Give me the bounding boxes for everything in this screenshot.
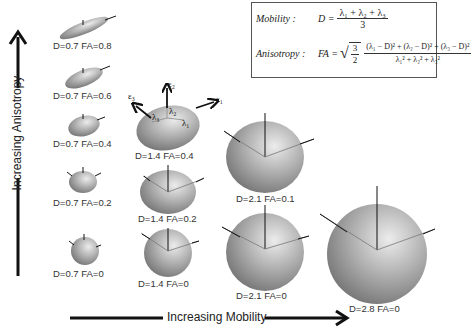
anisotropy-label: Anisotropy : xyxy=(256,48,318,59)
label-d07-fa0: D=0.7 FA=0 xyxy=(53,268,104,279)
sqrt-coefficient: √ 3 2 xyxy=(340,42,361,66)
ellipsoid-d07-fa02 xyxy=(67,167,101,193)
label-d14-fa04: D=1.4 FA=0.4 xyxy=(135,150,194,161)
lambda2-label: λ₂ xyxy=(169,106,177,116)
mobility-label: Mobility : xyxy=(256,13,318,24)
anisotropy-numerator: (λ₁ − D)² + (λ₂ − D)² + (λ₃ − D)² xyxy=(364,41,471,54)
label-d14-fa0: D=1.4 FA=0 xyxy=(138,278,189,289)
coef-denominator: 2 xyxy=(353,55,358,66)
label-d07-fa04: D=0.7 FA=0.4 xyxy=(53,138,112,149)
mobility-denominator: 3 xyxy=(360,19,365,30)
ellipsoid-d07-fa06 xyxy=(62,63,110,93)
x-axis-label: Increasing Mobility xyxy=(167,310,266,324)
anisotropy-lhs: FA = xyxy=(318,48,338,59)
epsilon3-label: ε₃ xyxy=(128,91,135,101)
anisotropy-fraction: (λ₁ − D)² + (λ₂ − D)² + (λ₃ − D)² λ₁² + … xyxy=(364,41,471,66)
ellipsoid-d28-fa0 xyxy=(320,186,435,304)
coef-numerator: 3 xyxy=(351,43,360,55)
anisotropy-formula: Anisotropy : FA = √ 3 2 (λ₁ − D)² + (λ₂ … xyxy=(256,41,471,66)
label-d07-fa06: D=0.7 FA=0.6 xyxy=(53,90,112,101)
epsilon1-label: ε₁ xyxy=(216,94,223,104)
label-d07-fa08: D=0.7 FA=0.8 xyxy=(53,40,112,51)
ellipsoid-d07-fa04 xyxy=(66,112,105,140)
ellipsoid-d14-fa04 xyxy=(132,88,214,156)
label-d14-fa02: D=1.4 FA=0.2 xyxy=(138,213,197,224)
ellipsoid-d07-fa0 xyxy=(69,234,101,265)
ellipsoid-d21-fa0 xyxy=(222,205,309,291)
lambda3-label: λ₃ xyxy=(152,112,160,122)
lambda1-label: λ₁ xyxy=(182,118,190,128)
label-d21-fa01: D=2.1 FA=0.1 xyxy=(236,193,295,204)
ellipsoid-d14-fa0 xyxy=(141,228,199,277)
epsilon2-label: ε₂ xyxy=(168,79,175,89)
label-d28-fa0: D=2.8 FA=0 xyxy=(349,303,400,314)
label-d07-fa02: D=0.7 FA=0.2 xyxy=(53,197,112,208)
mobility-numerator: λ₁ + λ₂ + λ₃ xyxy=(337,7,387,19)
y-axis-label: Increasing Anisotropy xyxy=(10,68,24,198)
anisotropy-denominator: λ₁² + λ₂² + λ₃² xyxy=(396,54,440,66)
mobility-fraction: λ₁ + λ₂ + λ₃ 3 xyxy=(337,7,387,30)
mobility-formula: Mobility : D = λ₁ + λ₂ + λ₃ 3 xyxy=(256,7,388,30)
ellipsoid-d21-fa01 xyxy=(224,113,314,193)
ellipsoid-d14-fa02 xyxy=(140,165,204,214)
ellipsoid-d07-fa08 xyxy=(58,13,116,44)
mobility-lhs: D = xyxy=(318,13,334,24)
label-d21-fa0: D=2.1 FA=0 xyxy=(236,290,287,301)
formula-box: Mobility : D = λ₁ + λ₂ + λ₃ 3 Anisotropy… xyxy=(251,2,437,78)
